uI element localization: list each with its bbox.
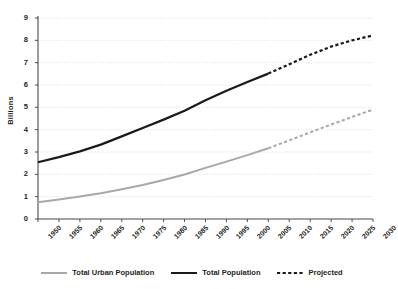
legend-item[interactable]: Total Population bbox=[171, 269, 260, 277]
series-line-actual bbox=[38, 74, 268, 163]
legend-label: Projected bbox=[308, 269, 342, 277]
axis-lines bbox=[35, 16, 373, 222]
legend-label: Total Urban Population bbox=[72, 269, 154, 277]
data-series bbox=[38, 35, 373, 202]
series-line-projected bbox=[268, 35, 373, 73]
legend-line-sample bbox=[171, 269, 197, 277]
legend-item[interactable]: Projected bbox=[277, 269, 342, 277]
legend-item[interactable]: Total Urban Population bbox=[41, 269, 154, 277]
series-line-actual bbox=[38, 148, 268, 202]
gridlines bbox=[38, 18, 373, 219]
legend-line-sample bbox=[41, 269, 67, 277]
legend-line-sample bbox=[277, 269, 303, 277]
series-line-projected bbox=[268, 110, 373, 149]
chart-legend: Total Urban PopulationTotal PopulationPr… bbox=[0, 262, 384, 284]
legend-label: Total Population bbox=[202, 269, 260, 277]
